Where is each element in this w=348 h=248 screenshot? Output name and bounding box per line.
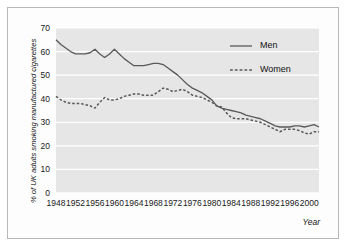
y-tick-label: 70 [26,24,50,33]
x-axis-title: Year [303,218,321,227]
legend-label-women: Women [260,65,291,74]
x-tick-label: 2000 [296,199,322,208]
legend-label-men: Men [260,41,278,50]
plot-area-background [56,28,319,193]
y-axis-title: % of UK adults smoking manufactured ciga… [30,39,38,203]
chart-figure-frame: 010203040506070 194819521956196019641968… [7,7,339,239]
